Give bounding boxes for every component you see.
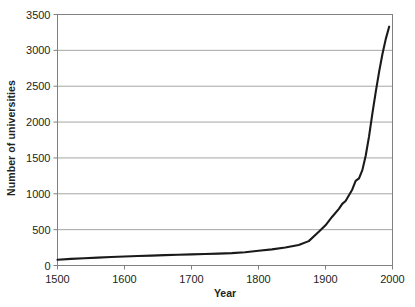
y-tick-label-500: 500 — [32, 224, 50, 236]
chart-container: Number of universities 05001000150020002… — [0, 0, 415, 307]
y-tick-label-3500: 3500 — [26, 9, 50, 21]
x-axis-ticks-group: 150016001700180019002000 — [45, 266, 404, 285]
x-tick-label-1900: 1900 — [313, 273, 337, 285]
line-chart-plot: 0500100015002000250030003500 15001600170… — [0, 0, 415, 307]
x-tick-label-1700: 1700 — [179, 273, 203, 285]
y-tick-label-0: 0 — [44, 260, 50, 272]
data-series-line — [58, 27, 390, 260]
y-tick-label-1000: 1000 — [26, 188, 50, 200]
x-axis-title: Year — [57, 287, 393, 299]
gridlines-group — [58, 15, 393, 230]
y-tick-label-3000: 3000 — [26, 44, 50, 56]
plot-border — [58, 15, 393, 266]
y-axis-ticks-group: 0500100015002000250030003500 — [26, 9, 57, 272]
y-tick-label-1500: 1500 — [26, 152, 50, 164]
x-tick-label-1600: 1600 — [112, 273, 136, 285]
y-tick-label-2500: 2500 — [26, 80, 50, 92]
x-tick-label-2000: 2000 — [380, 273, 404, 285]
x-tick-label-1500: 1500 — [45, 273, 69, 285]
x-tick-label-1800: 1800 — [246, 273, 270, 285]
series-line-0 — [58, 27, 390, 260]
plot-frame — [58, 15, 393, 266]
y-tick-label-2000: 2000 — [26, 116, 50, 128]
